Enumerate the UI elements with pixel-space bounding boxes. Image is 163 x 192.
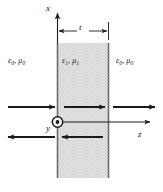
left-mu-subscript: 0 — [22, 60, 25, 66]
y-axis-label: y — [46, 124, 50, 133]
right-mu-subscript: 0 — [130, 60, 133, 66]
thickness-dimension-label: t — [79, 23, 82, 32]
slab-medium-label: ε1, μ1 — [62, 57, 79, 65]
left-epsilon-subscript: 0 — [11, 60, 14, 66]
left-medium-label: ε0, μ0 — [8, 57, 25, 65]
right-medium-label: ε0, μ0 — [116, 57, 133, 65]
origin-dot-icon — [56, 120, 60, 124]
dielectric-slab-figure: x y z t ε0, μ0 ε1, μ1 ε0, μ0 — [0, 0, 163, 192]
slab-epsilon-subscript: 1 — [65, 60, 68, 66]
z-axis-label: z — [138, 130, 142, 139]
slab-mu-subscript: 1 — [76, 60, 79, 66]
x-axis-label: x — [46, 4, 50, 13]
right-epsilon-subscript: 0 — [119, 60, 122, 66]
